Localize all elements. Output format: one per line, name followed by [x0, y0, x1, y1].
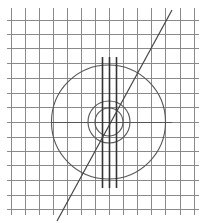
diagonal-line — [57, 10, 172, 221]
geometry-diagram — [0, 0, 205, 223]
